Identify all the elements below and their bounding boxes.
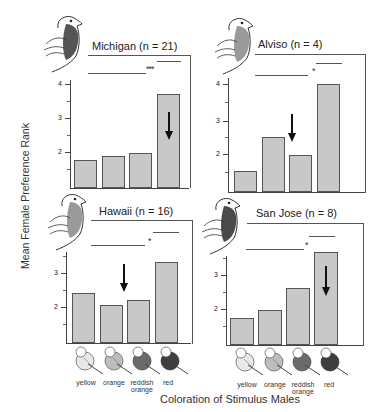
y-axis-label: Mean Female Preference Rank — [19, 111, 31, 281]
y-minor-tick — [67, 101, 70, 102]
panel-title: Alviso (n = 4) — [258, 38, 323, 50]
significance-line-right — [153, 232, 179, 233]
bar-yellow — [74, 160, 97, 188]
y-tick — [65, 84, 70, 85]
significance-line-left — [91, 245, 145, 246]
bar-reddish-orange — [129, 153, 152, 188]
bird-yellow-icon — [72, 346, 104, 376]
y-tick-label: 2 — [50, 148, 62, 155]
y-tick-label: 3 — [50, 114, 62, 121]
bar-reddish-orange — [289, 155, 312, 192]
y-tick — [61, 307, 66, 308]
significance-line-right — [316, 63, 342, 64]
y-minor-tick — [63, 290, 66, 291]
significance-line-left — [88, 73, 146, 74]
arrow-head-icon — [165, 131, 173, 140]
category-label-orange: orange — [260, 381, 290, 389]
y-minor-tick — [63, 256, 66, 257]
bar-reddish-orange — [286, 288, 310, 345]
significance-line-left — [246, 249, 304, 250]
bird-head-icon — [44, 12, 90, 74]
y-minor-tick — [225, 102, 228, 103]
bar-red — [317, 84, 340, 192]
arrow-head-icon — [120, 283, 128, 292]
category-label-reddish-orange-line2: orange — [288, 388, 318, 396]
y-minor-tick — [223, 258, 226, 259]
category-label-red: red — [314, 381, 344, 389]
y-minor-tick — [67, 169, 70, 170]
bird-red-icon — [157, 346, 189, 376]
y-tick-label: 2 — [208, 150, 220, 157]
panel-title: Michigan (n = 21) — [92, 40, 177, 52]
bar-orange — [258, 310, 282, 345]
y-tick-label: 3 — [208, 117, 220, 124]
bird-yellow-icon — [232, 347, 264, 377]
significance-line-right — [157, 61, 181, 62]
y-tick — [65, 118, 70, 119]
y-tick-label: 3 — [46, 269, 58, 276]
arrow-down-icon — [325, 266, 327, 288]
y-minor-tick — [67, 135, 70, 136]
arrow-down-icon — [291, 114, 293, 134]
arrow-head-icon — [288, 133, 296, 142]
bar-orange — [262, 137, 285, 192]
bar-orange — [102, 156, 125, 188]
y-minor-tick — [63, 324, 66, 325]
y-tick-label: 4 — [50, 80, 62, 87]
y-tick-label: 2 — [206, 305, 218, 312]
arrow-head-icon — [322, 287, 330, 296]
significance-line-right — [309, 236, 335, 237]
y-tick — [221, 275, 226, 276]
panel-title: Hawaii (n = 16) — [99, 205, 173, 217]
significance-stars: *** — [146, 64, 154, 74]
significance-stars: * — [305, 240, 308, 250]
bird-head-icon — [48, 190, 94, 252]
y-tick — [223, 84, 228, 85]
significance-line-left — [255, 75, 308, 76]
category-label-red: red — [153, 379, 183, 387]
significance-stars: * — [148, 236, 151, 246]
y-minor-tick — [225, 137, 228, 138]
bar-orange — [100, 305, 123, 343]
bird-red-icon — [317, 347, 349, 377]
category-label-yellow: yellow — [232, 381, 262, 389]
arrow-down-icon — [123, 264, 125, 284]
y-tick — [223, 121, 228, 122]
bar-yellow — [234, 171, 257, 192]
bar-red — [155, 262, 178, 343]
significance-stars: * — [312, 66, 315, 76]
y-tick-label: 4 — [208, 80, 220, 87]
y-minor-tick — [223, 292, 226, 293]
bar-red — [157, 94, 180, 188]
y-tick-label: 3 — [206, 271, 218, 278]
bird-head-icon — [202, 194, 248, 256]
panel-title: San Jose (n = 8) — [256, 207, 337, 219]
category-label-orange: orange — [99, 379, 129, 387]
arrow-down-icon — [168, 112, 170, 132]
y-minor-tick — [225, 172, 228, 173]
category-label-reddish-orange-line2: orange — [127, 386, 157, 394]
y-tick-label: 2 — [46, 303, 58, 310]
bar-yellow — [230, 318, 254, 345]
y-tick — [221, 309, 226, 310]
y-tick — [61, 273, 66, 274]
bar-yellow — [72, 293, 95, 343]
y-minor-tick — [223, 326, 226, 327]
y-tick — [65, 152, 70, 153]
y-tick — [223, 154, 228, 155]
bar-reddish-orange — [127, 300, 150, 343]
category-label-yellow: yellow — [71, 379, 101, 387]
